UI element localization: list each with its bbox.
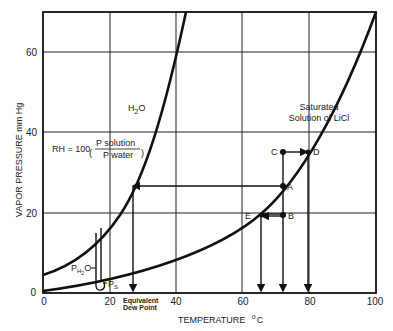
label-c: C <box>271 147 278 157</box>
svg-text:60: 60 <box>237 296 249 307</box>
plot-frame <box>43 12 376 293</box>
label-a: A <box>287 182 293 192</box>
grid <box>43 12 376 293</box>
svg-text:(: ( <box>89 148 92 158</box>
construction-lines <box>96 152 308 291</box>
y-tick-labels: 0 20 40 60 <box>26 47 38 298</box>
vapor-pressure-chart: A B C D E 0 20 40 60 80 100 0 20 40 60 T… <box>0 0 393 331</box>
label-d: D <box>313 147 320 157</box>
svg-text:0: 0 <box>41 296 47 307</box>
label-e: E <box>245 211 251 221</box>
svg-text:20: 20 <box>104 296 116 307</box>
ps-label: PS <box>108 279 118 290</box>
licl-curve <box>43 12 376 291</box>
dew-point-label-line2: Dew Point <box>123 304 158 311</box>
x-tick-labels: 0 20 40 60 80 100 <box>41 296 384 307</box>
label-b: B <box>288 211 294 221</box>
svg-text:40: 40 <box>26 127 38 138</box>
ph2o-label: PH2O <box>71 263 91 276</box>
point-d <box>306 150 311 155</box>
licl-label-line2: Solution of LiCl <box>289 113 350 123</box>
point-e <box>260 213 265 218</box>
svg-text:): ) <box>141 148 144 158</box>
svg-text:40: 40 <box>170 296 182 307</box>
svg-text:60: 60 <box>26 47 38 58</box>
svg-text:100: 100 <box>367 296 384 307</box>
point-b <box>280 212 286 218</box>
licl-label-line1: Saturated <box>299 102 338 112</box>
svg-text:RH = 100: RH = 100 <box>52 144 90 154</box>
h2o-label: H2O <box>128 103 145 115</box>
svg-text:80: 80 <box>304 296 316 307</box>
rh-formula: RH = 100 ( P solution P water ) <box>52 138 144 160</box>
svg-text:P water: P water <box>103 150 133 160</box>
svg-text:0: 0 <box>30 287 36 298</box>
svg-text:20: 20 <box>26 208 38 219</box>
x-axis-title: TEMPERATURE oC <box>178 313 264 325</box>
svg-text:P solution: P solution <box>96 138 135 148</box>
point-a <box>280 183 286 189</box>
point-c <box>280 149 286 155</box>
y-axis-title: VAPOR PRESSURE mm Hg <box>14 103 24 217</box>
